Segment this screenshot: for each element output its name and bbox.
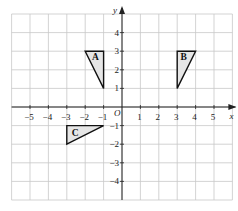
triangles: ABC	[67, 51, 196, 144]
triangle-label-b: B	[180, 52, 187, 62]
axes	[12, 6, 237, 200]
y-tick-label: 3	[115, 46, 120, 56]
origin-label: O	[114, 108, 121, 118]
triangle-label-a: A	[92, 52, 99, 62]
y-tick-label: −1	[109, 121, 119, 131]
coordinate-grid: ABC −5−4−3−2−1123454321−1−2−3−4Oxy	[0, 0, 238, 211]
y-tick-label: −3	[109, 158, 119, 168]
y-tick-label: −2	[109, 139, 119, 149]
x-tick-label: −4	[43, 112, 53, 122]
x-tick-label: −3	[61, 112, 71, 122]
x-tick-label: −5	[24, 112, 34, 122]
triangle-label-c: C	[72, 128, 79, 138]
x-tick-label: −2	[79, 112, 89, 122]
x-tick-label: 4	[192, 112, 197, 122]
y-axis-label: y	[112, 5, 117, 15]
x-tick-label: −1	[98, 112, 108, 122]
x-tick-label: 5	[211, 112, 216, 122]
x-axis-label: x	[228, 111, 233, 121]
x-tick-label: 3	[174, 112, 179, 122]
x-tick-label: 1	[137, 112, 142, 122]
y-tick-label: −4	[109, 176, 119, 186]
y-tick-label: 2	[115, 65, 120, 75]
y-axis-arrow-icon	[119, 6, 125, 14]
y-tick-label: 1	[115, 83, 120, 93]
y-tick-label: 4	[115, 28, 120, 38]
x-tick-label: 2	[156, 112, 161, 122]
